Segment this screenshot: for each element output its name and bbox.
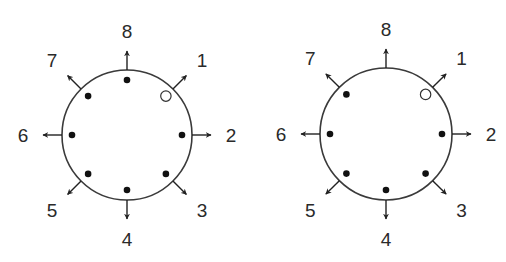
direction-label: 6 bbox=[18, 125, 29, 146]
direction-label: 5 bbox=[47, 200, 58, 221]
filled-dot-icon bbox=[163, 171, 170, 178]
direction-label: 4 bbox=[381, 229, 392, 250]
outline-circle bbox=[320, 68, 452, 200]
arrow-direction-1-icon bbox=[173, 76, 186, 89]
direction-label: 5 bbox=[305, 200, 316, 221]
filled-dot-icon bbox=[179, 132, 186, 139]
filled-dot-icon bbox=[85, 93, 92, 100]
diagram-left: 12345678 bbox=[18, 21, 237, 250]
direction-label: 1 bbox=[456, 48, 467, 69]
filled-dot-icon bbox=[383, 187, 390, 194]
filled-dot-icon bbox=[343, 170, 350, 177]
direction-label: 3 bbox=[456, 200, 467, 221]
filled-dot-icon bbox=[327, 131, 334, 138]
arrow-direction-5-icon bbox=[326, 181, 339, 194]
arrow-direction-7-icon bbox=[326, 74, 339, 87]
direction-label: 2 bbox=[486, 124, 497, 145]
filled-dot-icon bbox=[422, 170, 429, 177]
figure: 12345678 12345678 bbox=[0, 0, 506, 262]
filled-dot-icon bbox=[439, 131, 446, 138]
open-circle-icon bbox=[420, 89, 430, 99]
filled-dot-icon bbox=[343, 91, 350, 98]
direction-label: 8 bbox=[381, 19, 392, 40]
direction-label: 7 bbox=[305, 48, 316, 69]
arrow-direction-3-icon bbox=[433, 181, 446, 194]
direction-label: 4 bbox=[122, 229, 133, 250]
diagram-right: 12345678 bbox=[276, 19, 497, 250]
arrow-direction-5-icon bbox=[68, 181, 81, 194]
filled-dot-icon bbox=[124, 187, 131, 194]
direction-label: 3 bbox=[197, 200, 208, 221]
arrow-direction-7-icon bbox=[68, 76, 81, 89]
filled-dot-icon bbox=[85, 171, 92, 178]
direction-label: 7 bbox=[47, 50, 58, 71]
open-circle-icon bbox=[161, 91, 171, 101]
direction-label: 8 bbox=[122, 21, 133, 42]
filled-dot-icon bbox=[124, 77, 131, 84]
arrow-direction-1-icon bbox=[433, 74, 446, 87]
filled-dot-icon bbox=[69, 132, 76, 139]
direction-label: 6 bbox=[276, 124, 287, 145]
arrow-direction-3-icon bbox=[173, 181, 186, 194]
outline-circle bbox=[62, 70, 192, 200]
direction-label: 2 bbox=[226, 125, 237, 146]
direction-label: 1 bbox=[197, 50, 208, 71]
diagram-canvas: 12345678 12345678 bbox=[0, 0, 506, 262]
